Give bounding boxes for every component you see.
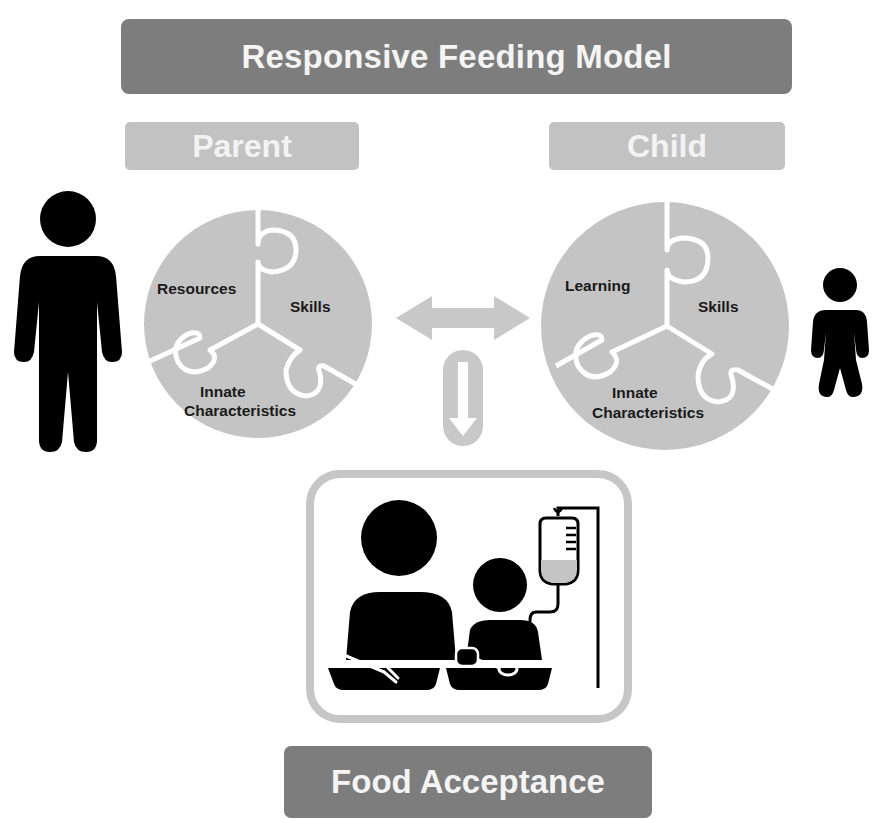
food-acceptance-box: Food Acceptance [284,746,652,818]
family-mealtime-with-iv-icon [0,0,879,819]
